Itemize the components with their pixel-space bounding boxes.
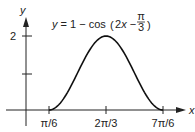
x-tick-label-2pi-3: 2π/3 <box>95 117 118 129</box>
x-tick-label-pi-6: π/6 <box>41 117 58 129</box>
title-frac-den: 3 <box>138 21 144 33</box>
title-paren-left: ( <box>110 19 114 31</box>
chart: y x 2 π/6 2π/3 7π/6 y = 1 − cos ( 2x − π… <box>0 0 195 132</box>
title-inner: 2x − <box>115 18 136 30</box>
y-axis-arrow-icon <box>23 17 29 27</box>
y-tick-label-2: 2 <box>10 30 16 42</box>
chart-title: y = 1 − cos <box>51 18 106 30</box>
curve-line <box>49 36 163 110</box>
title-paren-right: ) <box>147 19 151 31</box>
x-tick-label-7pi-6: 7π/6 <box>152 117 175 129</box>
y-axis-label: y <box>19 4 27 16</box>
x-axis-arrow-icon <box>176 107 186 113</box>
x-axis-label: x <box>188 104 195 116</box>
